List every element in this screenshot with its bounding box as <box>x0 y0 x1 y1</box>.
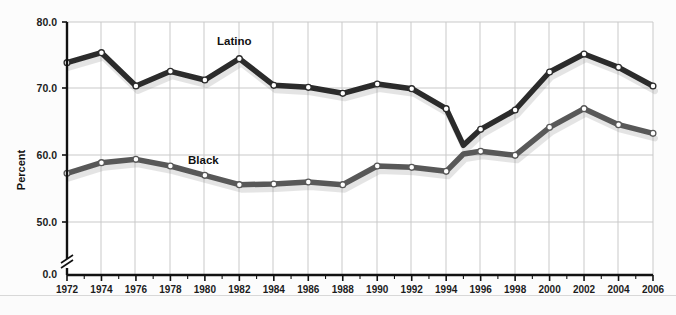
y-axis-tick-labels: 80.0 70.0 60.0 50.0 0.0 <box>37 16 58 280</box>
y-tick-label-zero: 0.0 <box>42 268 57 280</box>
y-axis-title: Percent <box>15 149 27 190</box>
line-chart: 80.0 70.0 60.0 50.0 0.0 Percent 19721974… <box>0 0 676 315</box>
data-point-latino <box>478 126 484 132</box>
x-tick-label: 1998 <box>504 284 527 295</box>
x-tick-label: 1982 <box>228 284 251 295</box>
x-tick-label: 1972 <box>56 284 79 295</box>
data-point-black <box>616 122 622 128</box>
data-point-black <box>650 130 656 136</box>
x-tick-label: 1976 <box>125 284 148 295</box>
x-tick-label: 1980 <box>194 284 217 295</box>
data-point-latino <box>650 83 656 89</box>
x-tick-label: 1996 <box>470 284 493 295</box>
data-point-black <box>478 148 484 154</box>
series-label-latino: Latino <box>217 35 252 47</box>
data-point-latino <box>99 50 105 56</box>
y-tick-label: 50.0 <box>37 216 58 228</box>
plot-area-background <box>67 22 653 275</box>
data-point-latino <box>616 64 622 70</box>
data-point-latino <box>305 84 311 90</box>
x-tick-label: 1994 <box>435 284 458 295</box>
data-point-latino <box>547 69 553 75</box>
data-point-latino <box>581 51 587 57</box>
x-tick-label: 2004 <box>607 284 630 295</box>
data-point-black <box>443 168 449 174</box>
data-point-black <box>581 106 587 112</box>
data-point-black <box>374 163 380 169</box>
data-point-black <box>340 182 346 188</box>
data-point-black <box>168 163 174 169</box>
series-label-black: Black <box>188 154 219 166</box>
data-point-black <box>99 160 105 166</box>
data-point-black <box>409 164 415 170</box>
x-tick-label: 1990 <box>366 284 389 295</box>
data-point-black <box>202 172 208 178</box>
x-tick-label: 2006 <box>642 284 665 295</box>
data-point-black <box>547 124 553 130</box>
data-point-black <box>236 182 242 188</box>
chart-page: 80.0 70.0 60.0 50.0 0.0 Percent 19721974… <box>0 0 676 315</box>
y-tick-label: 80.0 <box>37 16 58 28</box>
x-tick-label: 2000 <box>538 284 561 295</box>
data-point-latino <box>374 81 380 87</box>
data-point-black <box>133 156 139 162</box>
x-tick-label: 1988 <box>332 284 355 295</box>
x-tick-label: 1974 <box>90 284 113 295</box>
data-point-black <box>271 181 277 187</box>
x-axis-tick-labels: 1972197419761978198019821984198619881990… <box>56 284 665 295</box>
data-point-black <box>512 152 518 158</box>
data-point-latino <box>133 83 139 89</box>
data-point-latino <box>340 90 346 96</box>
x-tick-label: 1992 <box>401 284 424 295</box>
data-point-latino <box>202 77 208 83</box>
data-point-latino <box>512 107 518 113</box>
x-tick-label: 2002 <box>573 284 596 295</box>
data-point-black <box>305 179 311 185</box>
y-tick-label: 70.0 <box>37 82 58 94</box>
y-tick-label: 60.0 <box>37 149 58 161</box>
data-point-latino <box>409 86 415 92</box>
x-tick-label: 1986 <box>297 284 320 295</box>
data-point-latino <box>271 82 277 88</box>
data-point-latino <box>236 56 242 62</box>
x-tick-label: 1978 <box>159 284 182 295</box>
data-point-latino <box>168 68 174 74</box>
data-point-latino <box>443 106 449 112</box>
x-tick-label: 1984 <box>263 284 286 295</box>
